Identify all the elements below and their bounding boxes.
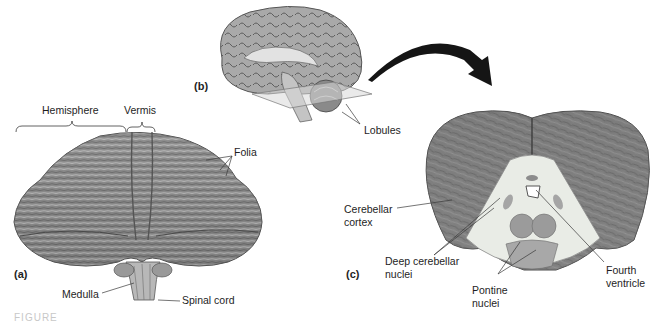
label-deep-cerebellar-nuclei-line2: nuclei <box>385 268 412 280</box>
panel-b-leader-lines <box>342 104 360 124</box>
sagittal-brain-illustration <box>221 6 372 122</box>
label-spinal-cord: Spinal cord <box>182 294 235 306</box>
panel-tag-a: (a) <box>14 268 27 280</box>
figure-caption-fragment: FIGURE <box>14 312 58 321</box>
label-hemisphere: Hemisphere <box>42 104 99 116</box>
label-vermis: Vermis <box>124 104 156 116</box>
label-lobules: Lobules <box>364 124 401 136</box>
figure-artwork <box>0 0 667 321</box>
panel-tag-b: (b) <box>194 80 208 92</box>
label-cerebellar-cortex-line2: cortex <box>344 216 373 228</box>
panel-tag-c: (c) <box>346 268 359 280</box>
transverse-section-illustration <box>426 111 649 270</box>
label-fourth-ventricle-line1: Fourth <box>606 264 636 276</box>
vermis-bracket <box>127 122 155 132</box>
label-cerebellar-cortex-line1: Cerebellar <box>344 203 392 215</box>
curved-arrow-icon <box>368 43 492 86</box>
label-deep-cerebellar-nuclei-line1: Deep cerebellar <box>385 255 459 267</box>
label-medulla: Medulla <box>62 288 99 300</box>
hemisphere-bracket <box>16 121 126 132</box>
label-folia: Folia <box>234 146 257 158</box>
label-pontine-nuclei-line2: nuclei <box>472 297 499 309</box>
label-fourth-ventricle-line2: ventricle <box>606 277 645 289</box>
label-pontine-nuclei-line1: Pontine <box>472 284 508 296</box>
cerebellum-posterior-illustration <box>14 121 262 300</box>
